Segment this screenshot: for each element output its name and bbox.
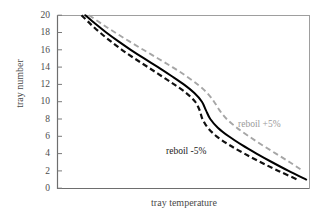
y-axis-ticks (58, 15, 63, 188)
y-tick-label-8: 8 (30, 114, 50, 124)
y-tick-label-6: 6 (30, 131, 50, 141)
y-axis-title: tray number (14, 39, 25, 129)
y-tick-label-2: 2 (30, 166, 50, 176)
y-tick-label-20: 20 (30, 10, 50, 20)
y-tick-label-16: 16 (30, 45, 50, 55)
y-tick-label-12: 12 (30, 79, 50, 89)
y-tick-label-0: 0 (30, 183, 50, 193)
chart-figure: 20 18 16 14 12 10 8 6 4 2 0 tray number … (0, 0, 331, 215)
y-tick-label-10: 10 (30, 96, 50, 106)
y-tick-label-4: 4 (30, 148, 50, 158)
y-tick-label-14: 14 (30, 62, 50, 72)
x-axis-title: tray temperature (57, 197, 311, 208)
annotation-reboil-minus: reboil -5% (166, 146, 206, 156)
annotation-reboil-plus: reboil +5% (238, 119, 281, 129)
y-tick-label-18: 18 (30, 27, 50, 37)
